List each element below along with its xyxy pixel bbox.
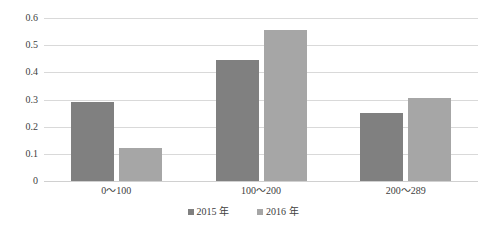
x-axis-category-label: 0～100 [101,184,131,198]
bar-chart: —— ——— —————— —— ——— 0.60.50.40.30.20.10… [0,0,486,240]
bar [408,98,451,181]
bar [264,30,307,181]
legend-item[interactable]: 2015 年 [188,206,230,218]
legend-swatch-icon [188,209,194,215]
x-axis-category-labels: 0～100100～200200～289 [44,184,478,200]
plot-area: 0.60.50.40.30.20.10 [44,18,478,181]
x-axis-category-label: 200～289 [386,184,426,198]
legend-item-label: 2016 年 [266,206,299,218]
y-axis-tick-label: 0 [33,176,38,186]
bar [216,60,259,181]
y-axis-tick-label: 0.4 [26,67,39,77]
gridline [44,45,478,46]
chart-legend: 2015 年2016 年 [0,206,486,218]
bar [360,113,403,181]
gridline [44,72,478,73]
y-axis-tick-label: 0.3 [26,95,39,105]
clipped-top-text: —— ——— —————— —— ——— [0,0,486,6]
axis-baseline [44,181,478,182]
legend-item[interactable]: 2016 年 [257,206,299,218]
legend-item-label: 2015 年 [197,206,230,218]
y-axis-tick-label: 0.5 [26,40,39,50]
clipped-top-text-label: —— ——— —————— —— ——— [70,0,470,3]
y-axis-tick-label: 0.6 [26,13,39,23]
bar [71,102,114,181]
x-axis-category-label: 100～200 [241,184,281,198]
gridline [44,18,478,19]
y-axis-tick-label: 0.2 [26,122,39,132]
y-axis-tick-label: 0.1 [26,149,39,159]
bar [119,148,162,181]
legend-swatch-icon [257,209,263,215]
